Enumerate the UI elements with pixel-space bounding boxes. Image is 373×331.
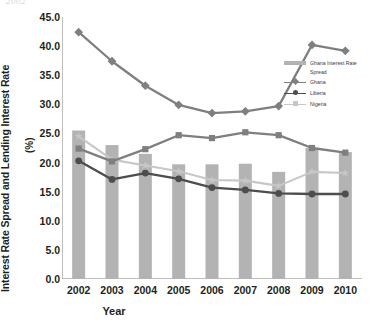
- legend-item-ghana: Ghana: [283, 77, 373, 87]
- y-tick-40.0: 40.0: [40, 40, 60, 52]
- bar-2008: [272, 172, 285, 279]
- point-2008: [275, 190, 282, 197]
- point-2007: [241, 107, 250, 116]
- x-tick-2004: 2004: [134, 284, 157, 296]
- bar-2009: [306, 148, 319, 279]
- x-axis-title: Year: [0, 305, 373, 317]
- legend-label: Ghana Interest Rate: [310, 60, 357, 67]
- point-2005: [176, 132, 182, 138]
- point-2002: [76, 145, 82, 151]
- legend-marker-icon: [293, 101, 298, 106]
- legend-label-continuation: Spread: [283, 69, 373, 76]
- point-2010: [342, 150, 348, 156]
- legend-label-line2: Spread: [310, 69, 327, 76]
- legend-key-line-star: [283, 99, 307, 109]
- x-axis-title-text: Year: [102, 305, 125, 317]
- chart-figure: 2002 Interest Rate Spread and Lending In…: [0, 0, 373, 331]
- legend-label: Liberia: [310, 90, 326, 97]
- point-2007: [242, 187, 249, 194]
- point-2006: [208, 109, 217, 118]
- plot-area: [62, 17, 362, 279]
- point-2005: [175, 175, 182, 182]
- bar-2003: [106, 145, 119, 279]
- y-axis-title: Interest Rate Spread and Lending Interes…: [0, 65, 11, 292]
- x-tick-2003: 2003: [100, 284, 123, 296]
- legend-marker-icon: [293, 90, 298, 95]
- y-tick-15.0: 15.0: [40, 186, 60, 198]
- y-tick-25.0: 25.0: [40, 127, 60, 139]
- point-2006: [209, 135, 215, 141]
- point-2007: [242, 129, 248, 135]
- legend-marker-icon: [292, 78, 299, 85]
- point-2008: [274, 102, 283, 111]
- point-2006: [209, 184, 216, 191]
- y-tick-5.0: 5.0: [45, 244, 60, 256]
- y-tick-35.0: 35.0: [40, 69, 60, 81]
- legend-key-bar: [283, 58, 307, 68]
- x-tick-2010: 2010: [334, 284, 357, 296]
- y-tick-20.0: 20.0: [40, 157, 60, 169]
- legend-item-ghana-interest-rate: Ghana Interest Rate: [283, 58, 373, 68]
- x-tick-2002: 2002: [67, 284, 90, 296]
- point-2002: [75, 157, 82, 164]
- legend-key-line-diamond: [283, 77, 307, 87]
- point-2010: [341, 46, 350, 55]
- point-2003: [109, 176, 116, 183]
- legend-key-line-circle: [283, 88, 307, 98]
- point-2010: [342, 191, 349, 198]
- legend-label: Nigeria: [310, 101, 326, 108]
- point-2009: [309, 191, 316, 198]
- point-2004: [142, 170, 149, 177]
- x-tick-2006: 2006: [200, 284, 223, 296]
- bar-series-ghana-spread: [72, 131, 352, 279]
- point-2003: [109, 158, 115, 164]
- y-axis-title-wrap: Interest Rate Spread and Lending Interes…: [0, 0, 19, 300]
- y-tick-30.0: 30.0: [40, 98, 60, 110]
- chart-legend: Ghana Interest RateSpreadGhanaLiberiaNig…: [283, 58, 373, 110]
- legend-label: Ghana: [310, 79, 326, 86]
- y-axis-tick-labels: 0.05.010.015.020.025.030.035.040.045.0: [22, 0, 60, 331]
- y-tick-10.0: 10.0: [40, 215, 60, 227]
- x-tick-2005: 2005: [167, 284, 190, 296]
- y-tick-45.0: 45.0: [40, 11, 60, 23]
- chart-canvas: [62, 17, 362, 279]
- point-2009: [309, 145, 315, 151]
- point-2009: [308, 41, 317, 50]
- point-2008: [276, 132, 282, 138]
- x-tick-2008: 2008: [267, 284, 290, 296]
- legend-bar-swatch-icon: [284, 61, 306, 65]
- bar-2002: [72, 131, 85, 279]
- x-tick-2007: 2007: [234, 284, 257, 296]
- legend-key-spacer: [283, 68, 307, 78]
- point-2004: [142, 146, 148, 152]
- x-tick-2009: 2009: [300, 284, 323, 296]
- legend-item-nigeria: Nigeria: [283, 99, 373, 109]
- x-axis-tick-labels: 200220032004200520062007200820092010: [0, 284, 373, 300]
- legend-item-liberia: Liberia: [283, 88, 373, 98]
